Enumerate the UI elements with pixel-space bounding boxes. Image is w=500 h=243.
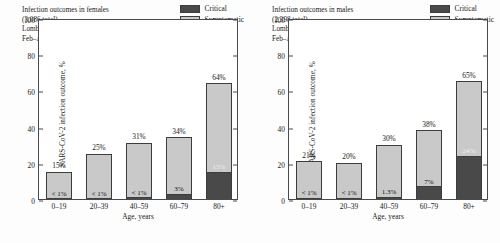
plot-area: SARS-CoV-2 infection outcome, %020406080… bbox=[38, 19, 238, 200]
bar-group: 30%1.3% bbox=[376, 145, 402, 199]
y-tick-mark bbox=[233, 56, 237, 57]
bar-critical-label: < 1% bbox=[296, 189, 322, 197]
y-tick-mark bbox=[289, 128, 293, 129]
bar-segment-critical bbox=[46, 198, 72, 199]
bar-segment-critical bbox=[416, 186, 442, 199]
bar-segment-critical bbox=[126, 197, 152, 199]
y-tick-label: 100 bbox=[24, 16, 39, 25]
bar-segment-symptomatic bbox=[456, 81, 482, 155]
figure: Infection outcomes in females(3,086 tota… bbox=[0, 0, 500, 243]
bar-total-label: 30% bbox=[376, 134, 402, 143]
bar-critical-label: 24% bbox=[456, 147, 482, 155]
panel-males: Infection outcomes in males(2,398 total)… bbox=[250, 0, 500, 243]
y-tick-mark bbox=[39, 92, 43, 93]
bar-critical-label: 1.3% bbox=[376, 188, 402, 196]
bar-critical-label: < 1% bbox=[46, 190, 72, 198]
plot-area: SARS-CoV-2 infection outcome, %020406080… bbox=[288, 19, 488, 200]
bar-total-label: 31% bbox=[126, 132, 152, 141]
y-tick-mark bbox=[483, 20, 487, 21]
y-tick-label: 20 bbox=[28, 160, 39, 169]
x-tick-label: 20–39 bbox=[340, 202, 358, 211]
bar-group: 15%< 1% bbox=[46, 172, 72, 199]
x-tick-label: 60–79 bbox=[170, 202, 188, 211]
bar-group: 34%3% bbox=[166, 137, 192, 199]
x-tick-label: 80+ bbox=[463, 202, 475, 211]
bar-group: 65%24% bbox=[456, 81, 482, 199]
annotation-line1: Infection outcomes in males bbox=[272, 6, 353, 16]
y-tick-label: 80 bbox=[278, 52, 289, 61]
x-tick-label: 0–19 bbox=[302, 202, 317, 211]
annotation-line1: Infection outcomes in females bbox=[22, 6, 109, 16]
x-tick-label: 20–39 bbox=[90, 202, 108, 211]
bar-group: 31%< 1% bbox=[126, 143, 152, 199]
x-tick-label: 40–59 bbox=[130, 202, 148, 211]
bar-group: 64%15% bbox=[206, 83, 232, 199]
bar-critical-label: 3% bbox=[166, 185, 192, 193]
panel-females: Infection outcomes in females(3,086 tota… bbox=[0, 0, 250, 243]
y-tick-mark bbox=[483, 56, 487, 57]
x-tick-label: 0–19 bbox=[52, 202, 67, 211]
bar-total-label: 21% bbox=[296, 151, 322, 160]
y-tick-mark bbox=[289, 164, 293, 165]
x-axis-label: Age, years bbox=[39, 212, 237, 221]
y-tick-mark bbox=[483, 201, 487, 202]
legend-item-critical: Critical bbox=[430, 4, 494, 14]
bar-total-label: 25% bbox=[86, 143, 112, 152]
bar-group: 25%< 1% bbox=[86, 154, 112, 199]
y-tick-label: 60 bbox=[278, 88, 289, 97]
bar-segment-critical bbox=[166, 194, 192, 199]
bar-segment-critical bbox=[376, 197, 402, 199]
y-tick-mark bbox=[233, 20, 237, 21]
bar-segment-symptomatic bbox=[206, 83, 232, 172]
y-tick-label: 100 bbox=[274, 16, 289, 25]
y-tick-label: 40 bbox=[28, 124, 39, 133]
x-axis-label: Age, years bbox=[289, 212, 487, 221]
bar-total-label: 64% bbox=[206, 73, 232, 82]
y-tick-label: 80 bbox=[28, 52, 39, 61]
x-tick-label: 60–79 bbox=[420, 202, 438, 211]
y-tick-mark bbox=[39, 201, 43, 202]
y-tick-mark bbox=[483, 164, 487, 165]
bar-critical-label: < 1% bbox=[86, 190, 112, 198]
legend-label-critical: Critical bbox=[205, 4, 227, 14]
x-tick-label: 40–59 bbox=[380, 202, 398, 211]
bar-group: 38%7% bbox=[416, 130, 442, 199]
y-tick-mark bbox=[233, 201, 237, 202]
bar-critical-label: 15% bbox=[206, 163, 232, 171]
bar-critical-label: 7% bbox=[416, 178, 442, 186]
bar-total-label: 34% bbox=[166, 127, 192, 136]
y-tick-mark bbox=[289, 56, 293, 57]
y-tick-mark bbox=[289, 201, 293, 202]
x-tick-label: 80+ bbox=[213, 202, 225, 211]
bar-segment-critical bbox=[336, 198, 362, 199]
bar-total-label: 38% bbox=[416, 120, 442, 129]
legend-swatch-critical bbox=[430, 5, 450, 13]
bar-total-label: 65% bbox=[456, 71, 482, 80]
y-tick-mark bbox=[289, 20, 293, 21]
y-tick-label: 40 bbox=[278, 124, 289, 133]
y-tick-mark bbox=[289, 92, 293, 93]
y-tick-mark bbox=[39, 56, 43, 57]
bar-critical-label: < 1% bbox=[126, 189, 152, 197]
legend-swatch-critical bbox=[180, 5, 200, 13]
y-tick-mark bbox=[483, 128, 487, 129]
bar-segment-critical bbox=[206, 172, 232, 199]
y-tick-label: 0 bbox=[31, 197, 39, 206]
bar-segment-critical bbox=[296, 198, 322, 199]
y-tick-mark bbox=[233, 128, 237, 129]
y-tick-label: 20 bbox=[278, 160, 289, 169]
y-tick-mark bbox=[233, 92, 237, 93]
bar-group: 20%< 1% bbox=[336, 163, 362, 199]
bar-total-label: 15% bbox=[46, 161, 72, 170]
legend-item-critical: Critical bbox=[180, 4, 244, 14]
y-tick-mark bbox=[39, 128, 43, 129]
bar-total-label: 20% bbox=[336, 152, 362, 161]
y-tick-label: 0 bbox=[281, 197, 289, 206]
y-tick-mark bbox=[39, 20, 43, 21]
y-tick-mark bbox=[39, 164, 43, 165]
y-tick-mark bbox=[233, 164, 237, 165]
bar-segment-critical bbox=[86, 198, 112, 199]
y-tick-mark bbox=[483, 92, 487, 93]
bar-group: 21%< 1% bbox=[296, 161, 322, 199]
bar-critical-label: < 1% bbox=[336, 189, 362, 197]
